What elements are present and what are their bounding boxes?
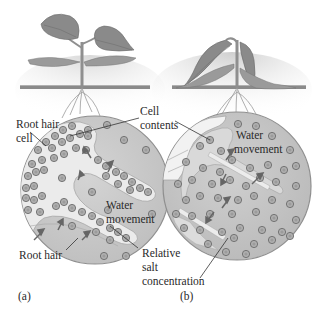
- magnified-view-a: [20, 116, 169, 264]
- figure: Root hair cell Cell contents Water movem…: [0, 0, 321, 320]
- label-salt-line3: concentration: [142, 274, 205, 288]
- diagram-canvas: [0, 0, 321, 320]
- label-salt-line1: Relative: [142, 246, 180, 260]
- label-cell-contents-line2: contents: [140, 118, 178, 132]
- caption-b: (b): [180, 289, 193, 303]
- label-water-a-line2: movement: [106, 212, 155, 226]
- caption-a: (a): [18, 289, 31, 303]
- panel-b: [152, 38, 312, 260]
- label-water-b-line2: movement: [234, 142, 283, 156]
- label-root-hair: Root hair: [19, 248, 62, 262]
- label-root-hair-cell-line2: cell: [16, 131, 33, 145]
- label-water-a-line1: Water: [106, 198, 133, 212]
- label-root-hair-cell-line1: Root hair: [16, 117, 59, 131]
- label-water-b-line1: Water: [236, 128, 263, 142]
- label-cell-contents-line1: Cell: [140, 104, 159, 118]
- label-salt-line2: salt: [142, 260, 158, 274]
